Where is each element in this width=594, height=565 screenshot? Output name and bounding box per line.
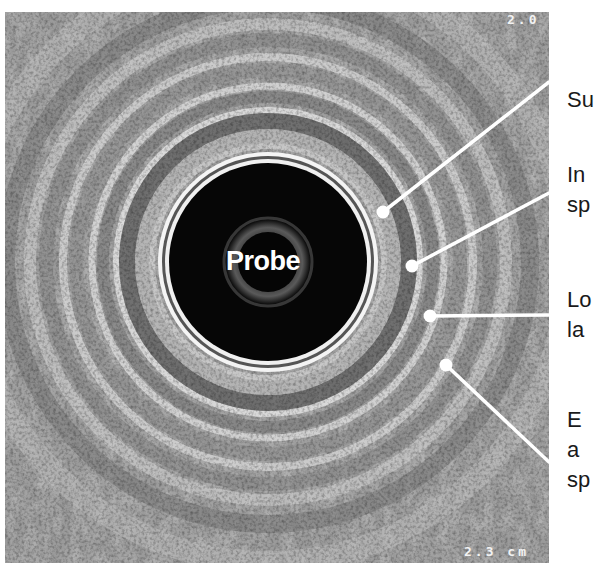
annotation-label-2: In sp [567,160,590,220]
ultrasound-image: Probe 2.0 2.3 cm [5,12,549,563]
scale-label-top: 2.0 [507,12,539,27]
annotation-label-4: E a sp [567,405,590,495]
probe-label: Probe [226,246,300,277]
ultrasound-rings [5,12,549,563]
annotation-label-1: Su [567,85,594,115]
scale-label-bottom: 2.3 cm [464,544,529,559]
annotation-label-3: Lo la [567,285,591,345]
